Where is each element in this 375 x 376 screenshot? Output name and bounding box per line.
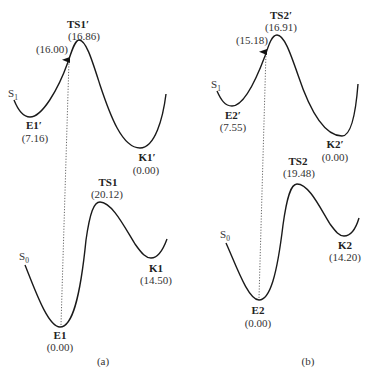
vertical-excitation-arrow-b — [259, 52, 266, 298]
panel-a: S1 S0 TS1′ (16.86) (16.00) E1′ (7.16) K1… — [8, 18, 172, 368]
ts1-prime-label: TS1′ — [67, 18, 89, 30]
k1-prime-value: (0.00) — [133, 164, 160, 177]
vertical-value-a: (16.00) — [36, 43, 68, 56]
state-label-s0-b: S0 — [220, 228, 230, 243]
k1-prime-label: K1′ — [138, 151, 155, 163]
ts1-prime-value: (16.86) — [68, 30, 100, 43]
e2-prime-label: E2′ — [225, 109, 241, 121]
ts2-value: (19.48) — [283, 167, 315, 180]
e1-label: E1 — [54, 329, 67, 341]
k2-prime-value: (0.00) — [322, 151, 349, 164]
k1-value: (14.50) — [140, 274, 172, 287]
state-label-s0-a: S0 — [19, 250, 29, 265]
vertical-excitation-arrow-a — [61, 60, 69, 325]
k1-label: K1 — [149, 262, 163, 274]
state-label-s1-b: S1 — [211, 78, 221, 93]
energy-diagram: S1 S0 TS1′ (16.86) (16.00) E1′ (7.16) K1… — [0, 0, 375, 376]
state-label-s1-a: S1 — [8, 87, 18, 102]
ts2-label: TS2 — [289, 155, 308, 167]
panel-b: S1 S0 TS2′ (16.91) (15.18) E2′ (7.55) K2… — [211, 9, 361, 368]
k2-value: (14.20) — [329, 251, 361, 264]
e2-prime-value: (7.55) — [220, 121, 247, 134]
ts2-prime-value: (16.91) — [265, 21, 297, 34]
e2-value: (0.00) — [245, 317, 272, 330]
e1-prime-value: (7.16) — [22, 132, 49, 145]
vertical-value-b: (15.18) — [236, 34, 268, 47]
e2-label: E2 — [252, 304, 265, 316]
s0-potential-curve-a — [25, 202, 167, 327]
panel-caption-a: (a) — [97, 355, 110, 368]
panel-caption-b: (b) — [302, 355, 315, 368]
k2-prime-label: K2′ — [326, 138, 343, 150]
ts1-value: (20.12) — [91, 188, 123, 201]
k2-label: K2 — [338, 239, 353, 251]
ts2-prime-label: TS2′ — [270, 9, 292, 21]
ts1-label: TS1 — [99, 176, 118, 188]
e1-value: (0.00) — [47, 341, 74, 354]
e1-prime-label: E1′ — [26, 119, 42, 131]
